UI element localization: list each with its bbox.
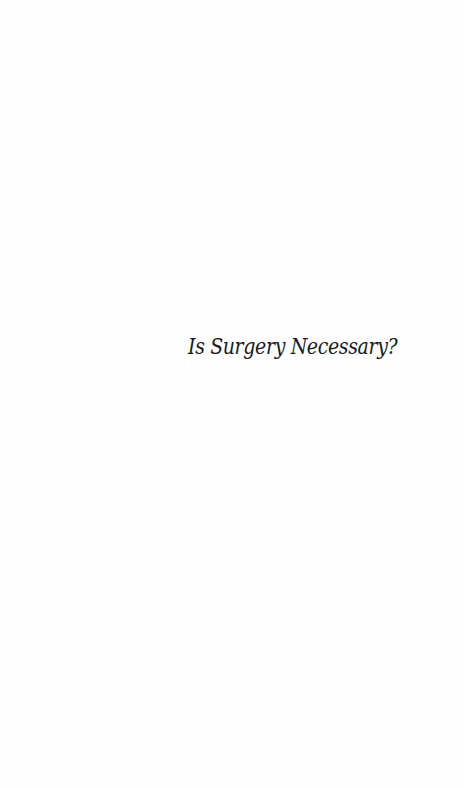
half-title: Is Surgery Necessary?: [188, 334, 397, 359]
book-page: Is Surgery Necessary?: [0, 0, 464, 788]
